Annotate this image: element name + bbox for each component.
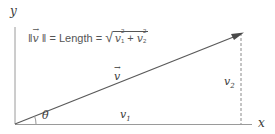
v2-sub: 2	[230, 82, 234, 90]
vector-diagram: y x ‖v ‖ = Length = √v21 + v22 v v2 v1 θ	[0, 0, 275, 134]
radical-icon: √	[105, 29, 113, 45]
angle-theta-label: θ	[42, 110, 49, 121]
plus-sign: +	[127, 32, 133, 44]
term2-sub: 2	[143, 38, 146, 44]
equals-2: =	[96, 32, 102, 44]
length-formula: ‖v ‖ = Length = √v21 + v22	[28, 30, 148, 44]
v2-label: v2	[224, 76, 235, 90]
y-axis-label: y	[10, 5, 17, 17]
term1-sup: 2	[121, 28, 124, 34]
term1-sub: 1	[121, 38, 124, 44]
vector-label: v	[114, 71, 120, 82]
radicand: v21 + v22	[113, 31, 148, 44]
vector-arrowhead-icon	[231, 33, 244, 41]
v1-label: v1	[120, 109, 131, 123]
formula-vector-symbol: v	[33, 33, 39, 44]
length-word: Length	[59, 32, 93, 44]
norm-close: ‖	[42, 32, 47, 44]
x-axis-label: x	[258, 117, 265, 129]
term2-sup: 2	[143, 28, 146, 34]
v1-sub: 1	[126, 115, 130, 123]
angle-arc	[35, 116, 37, 124]
equals-1: =	[49, 32, 55, 44]
